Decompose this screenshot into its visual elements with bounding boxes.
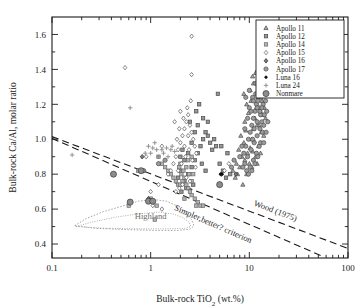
marker-circle (255, 120, 259, 124)
marker-square (182, 169, 185, 172)
marker-square (201, 117, 204, 120)
marker-square (216, 92, 219, 95)
marker-square (212, 138, 215, 141)
marker-circle (138, 168, 144, 174)
marker-circle (249, 148, 253, 152)
marker-square (176, 176, 179, 179)
marker-circle (127, 199, 133, 205)
y-tick-label: 1.6 (35, 30, 47, 40)
y-tick-label: 0.6 (35, 204, 47, 214)
marker-circle (264, 130, 268, 134)
marker-square (218, 162, 221, 165)
marker-circle (262, 123, 266, 127)
y-axis-label: Bulk-rock Ca/Al, molar ratio (8, 82, 18, 193)
marker-square (190, 193, 193, 196)
marker-circle (265, 76, 267, 78)
marker-circle (251, 116, 255, 120)
marker-circle (232, 158, 236, 162)
marker-square (174, 179, 177, 182)
marker-square (181, 148, 184, 151)
marker-square (185, 165, 188, 168)
marker-square (172, 176, 175, 179)
legend-label: Apollo 16 (276, 57, 305, 65)
legend-label: Apollo 14 (276, 41, 305, 49)
marker-circle (253, 162, 257, 166)
marker-square (264, 43, 267, 46)
marker-circle (245, 116, 249, 120)
marker-circle (250, 169, 254, 173)
marker-square (229, 172, 232, 175)
marker-square (210, 148, 213, 151)
y-tick-label: 1.4 (35, 65, 47, 75)
y-tick-label: 0.4 (35, 239, 47, 249)
marker-circle (245, 155, 249, 159)
marker-square (190, 141, 193, 144)
marker-square (190, 155, 193, 158)
marker-circle (264, 67, 268, 71)
marker-circle (150, 198, 156, 204)
marker-square (196, 200, 199, 203)
legend-label: Nonmare (276, 90, 303, 98)
marker-square (193, 197, 196, 200)
legend-label: Apollo 12 (276, 33, 305, 41)
marker-circle (255, 106, 259, 110)
marker-circle (241, 165, 245, 169)
marker-square (206, 134, 209, 137)
marker-circle (243, 127, 247, 131)
marker-circle (256, 155, 260, 159)
y-tick-label: 0.8 (35, 169, 47, 179)
marker-circle (262, 141, 266, 145)
marker-square (206, 120, 209, 123)
legend-label: Luna 16 (276, 74, 300, 82)
y-tick-label: 1.2 (35, 100, 46, 110)
x-axis-label: Bulk-rock TiO2 (wt.%) (156, 294, 244, 308)
marker-circle (260, 106, 264, 110)
marker-square (199, 145, 202, 148)
marker-square (204, 169, 207, 172)
x-tick-label: 10 (245, 263, 255, 273)
marker-square (185, 183, 188, 186)
marker-circle (256, 99, 260, 103)
marker-square (196, 124, 199, 127)
legend-label: Apollo 17 (276, 66, 305, 74)
marker-square (186, 159, 189, 162)
marker-circle (265, 109, 269, 113)
marker-square (264, 35, 267, 38)
marker-circle (221, 173, 223, 175)
marker-circle (242, 151, 246, 155)
marker-square (226, 152, 229, 155)
marker-square (190, 165, 193, 168)
marker-circle (252, 127, 256, 131)
marker-square (188, 190, 191, 193)
x-tick-label: 100 (341, 263, 355, 273)
marker-circle (263, 91, 269, 97)
marker-square (201, 204, 204, 207)
marker-square (155, 204, 158, 207)
marker-circle (163, 158, 167, 162)
marker-circle (238, 155, 242, 159)
marker-square (192, 183, 195, 186)
marker-square (183, 197, 186, 200)
x-tick-label: 1 (148, 263, 153, 273)
legend: Apollo 11Apollo 12Apollo 14Apollo 15Apol… (256, 20, 344, 98)
marker-square (214, 145, 217, 148)
marker-square (180, 190, 183, 193)
marker-square (153, 218, 156, 221)
highland-label: Highland (135, 211, 168, 221)
marker-circle (251, 137, 255, 141)
marker-square (163, 165, 166, 168)
legend-label: Apollo 11 (276, 25, 305, 33)
marker-circle (255, 134, 259, 138)
marker-square (224, 176, 227, 179)
marker-square (200, 162, 203, 165)
marker-square (208, 141, 211, 144)
marker-square (192, 172, 195, 175)
marker-square (195, 110, 198, 113)
marker-square (204, 131, 207, 134)
y-tick-label: 1.0 (35, 134, 47, 144)
marker-circle (246, 137, 250, 141)
marker-circle (229, 165, 233, 169)
marker-circle (249, 109, 253, 113)
marker-square (220, 145, 223, 148)
marker-square (180, 172, 183, 175)
